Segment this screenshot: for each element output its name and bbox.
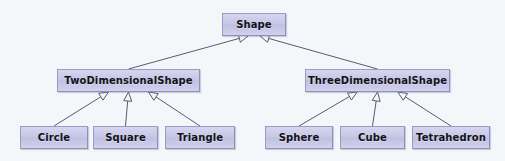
class-node-label: Triangle [177,133,223,143]
generalization-arrowhead-icon [347,92,357,100]
class-node-label: Tetrahedron [416,133,486,143]
class-node-cube[interactable]: Cube [340,126,405,149]
generalization-arrowhead-icon [149,92,159,100]
generalization-arrowhead-icon [372,92,380,101]
generalization-edge-line [269,38,378,69]
generalization-arrowhead-icon [124,92,132,101]
generalization-edge-line [373,101,377,126]
class-node-shape[interactable]: Shape [222,13,286,36]
class-node-threedimensionalshape[interactable]: ThreeDimensionalShape [305,69,450,92]
class-node-circle[interactable]: Circle [20,126,88,149]
generalization-edge-line [126,101,128,126]
class-node-label: Square [105,133,146,143]
uml-class-diagram: Shape TwoDimensionalShape ThreeDimension… [0,0,505,161]
class-node-label: TwoDimensionalShape [64,76,192,86]
class-node-label: Cube [358,133,387,143]
class-node-label: ThreeDimensionalShape [308,76,447,86]
class-node-label: Circle [38,133,70,143]
generalization-edge-line [129,38,240,69]
generalization-edge-line [299,97,349,126]
class-node-square[interactable]: Square [93,126,158,149]
generalization-arrowhead-icon [99,92,109,100]
class-node-label: Shape [236,20,272,30]
generalization-arrowhead-icon [398,92,408,100]
class-node-label: Sphere [279,133,320,143]
class-node-triangle[interactable]: Triangle [165,126,235,149]
generalization-edge-line [54,97,101,126]
class-node-tetrahedron[interactable]: Tetrahedron [412,126,490,149]
generalization-edge-line [156,97,200,126]
class-node-sphere[interactable]: Sphere [265,126,333,149]
class-node-twodimensionalshape[interactable]: TwoDimensionalShape [57,69,200,92]
generalization-edge-line [405,97,451,126]
